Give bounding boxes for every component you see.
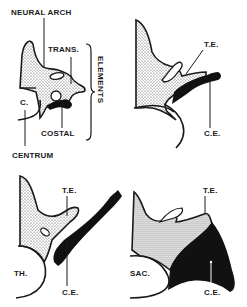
panel-generic [18, 18, 95, 146]
label-elements: ELEMENTS [96, 56, 104, 104]
label-te-sacral: T.E. [203, 187, 218, 195]
label-centrum: CENTRUM [12, 152, 53, 160]
label-sac: SAC. [130, 270, 150, 278]
label-te-cervical: T.E. [204, 41, 219, 49]
label-te-thoracic: T.E. [62, 187, 77, 195]
label-ce-sacral: C.E. [204, 289, 220, 297]
label-th: TH. [14, 270, 28, 278]
elements-brace [86, 44, 95, 140]
label-ce-thoracic: C.E. [62, 289, 78, 297]
label-ce-cervical: C.E. [204, 130, 220, 138]
label-costal: COSTAL [41, 130, 75, 138]
label-trans: TRANS. [48, 46, 79, 54]
panel-sacral [130, 192, 235, 298]
costal-foramen [51, 91, 61, 101]
label-neural-arch: NEURAL ARCH [11, 9, 71, 17]
label-c: C. [20, 99, 28, 107]
